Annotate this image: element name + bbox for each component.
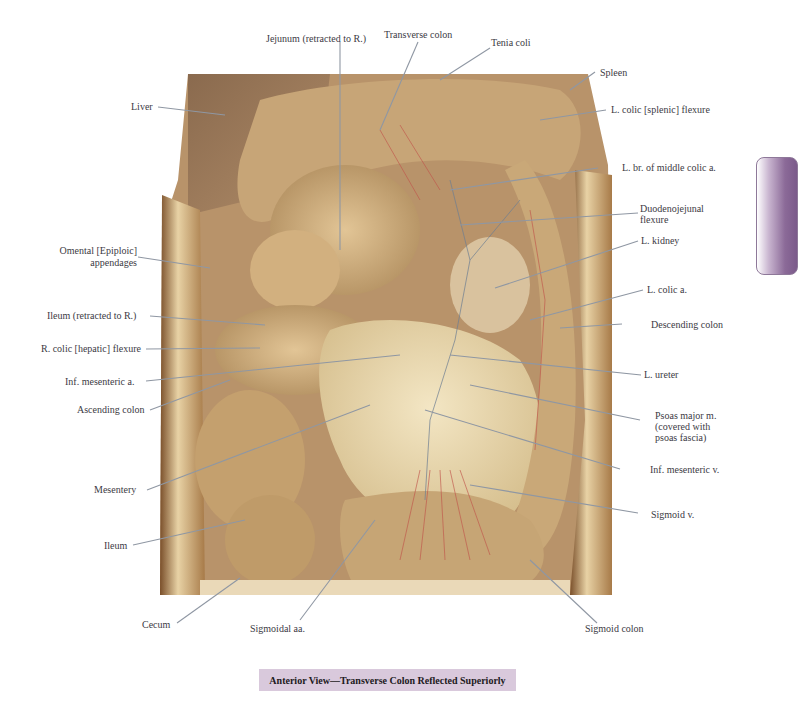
label-tenia-coli: Tenia coli bbox=[491, 37, 531, 49]
label-l-kidney: L. kidney bbox=[641, 235, 679, 247]
label-spleen: Spleen bbox=[600, 67, 627, 79]
chapter-tab[interactable] bbox=[756, 157, 798, 275]
label-transverse-colon: Transverse colon bbox=[384, 29, 452, 41]
label-omental-appendages-2: appendages bbox=[53, 257, 137, 269]
label-r-colic-flexure: R. colic [hepatic] flexure bbox=[41, 343, 141, 355]
label-l-colic-flexure: L. colic [splenic] flexure bbox=[611, 104, 710, 116]
label-ileum-retracted: Ileum (retracted to R.) bbox=[47, 310, 136, 322]
label-duodenojejunal-2: flexure bbox=[640, 214, 668, 226]
label-liver: Liver bbox=[131, 101, 153, 113]
label-l-br-middle-colic: L. br. of middle colic a. bbox=[622, 162, 716, 174]
label-sigmoidal-aa: Sigmoidal aa. bbox=[250, 623, 305, 635]
label-l-colic-a: L. colic a. bbox=[647, 284, 687, 296]
figure-caption: Anterior View—Transverse Colon Reflected… bbox=[259, 669, 516, 691]
label-inf-mesenteric-v: Inf. mesenteric v. bbox=[650, 464, 719, 476]
label-sigmoid-colon: Sigmoid colon bbox=[585, 623, 644, 635]
label-ascending-colon: Ascending colon bbox=[77, 404, 145, 416]
kidney-region bbox=[450, 237, 530, 333]
label-l-ureter: L. ureter bbox=[644, 369, 678, 381]
label-ileum: Ileum bbox=[104, 540, 127, 552]
label-omental-appendages-1: Omental [Epiploic] bbox=[53, 245, 137, 257]
label-inf-mesenteric-a: Inf. mesenteric a. bbox=[65, 376, 134, 388]
label-psoas-3: psoas fascia) bbox=[655, 432, 706, 444]
label-descending-colon: Descending colon bbox=[651, 319, 723, 331]
label-cecum: Cecum bbox=[142, 619, 170, 631]
label-mesentery: Mesentery bbox=[94, 484, 136, 496]
right-abdominal-wall bbox=[160, 195, 205, 595]
label-sigmoid-v: Sigmoid v. bbox=[651, 509, 694, 521]
label-jejunum: Jejunum (retracted to R.) bbox=[266, 33, 366, 45]
